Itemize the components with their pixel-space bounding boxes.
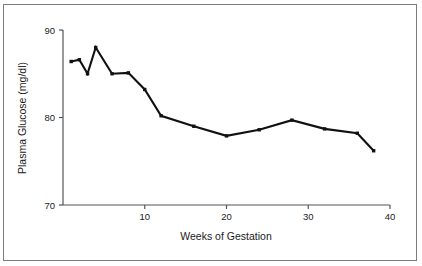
data-point-marker: [159, 114, 162, 117]
data-point-marker: [290, 118, 293, 121]
data-point-marker: [225, 134, 228, 137]
data-point-marker: [143, 88, 146, 91]
y-axis-title: Plasma Glucose (mg/dl): [16, 62, 28, 174]
y-axis-tick-label: 90: [44, 25, 55, 36]
figure-container: 708090 10203040 Plasma Glucose (mg/dl) W…: [0, 0, 422, 266]
x-axis-tick-label: 10: [139, 211, 150, 222]
y-axis-tick-label: 70: [44, 200, 55, 211]
data-point-marker: [258, 128, 261, 131]
x-axis-title: Weeks of Gestation: [180, 230, 272, 242]
data-point-marker: [86, 72, 89, 75]
data-series-line: [71, 48, 373, 151]
data-point-marker: [94, 46, 97, 49]
data-point-marker: [372, 149, 375, 152]
y-axis-tick-label: 80: [44, 112, 55, 123]
x-axis-ticks: [145, 205, 390, 209]
data-point-marker: [110, 72, 113, 75]
data-point-marker: [69, 60, 72, 63]
data-point-markers: [69, 46, 375, 153]
data-point-marker: [323, 127, 326, 130]
data-point-marker: [192, 125, 195, 128]
data-point-marker: [127, 71, 130, 74]
x-axis-tick-label: 30: [303, 211, 314, 222]
line-chart: 708090 10203040 Plasma Glucose (mg/dl) W…: [0, 0, 422, 266]
data-point-marker: [78, 58, 81, 61]
x-axis-tick-label: 40: [385, 211, 396, 222]
x-axis-tick-label: 20: [221, 211, 232, 222]
y-axis-tick-labels: 708090: [44, 25, 55, 211]
data-point-marker: [356, 132, 359, 135]
x-axis-tick-labels: 10203040: [139, 211, 395, 222]
